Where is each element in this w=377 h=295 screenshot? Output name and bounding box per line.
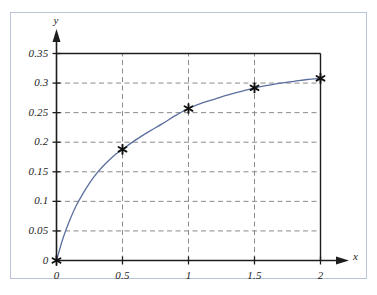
y-tick-label: 0.35 [28,47,48,59]
chart-plot-area [0,0,377,295]
y-tick-label: 0.3 [34,76,48,88]
x-tick-label: 1.5 [235,269,275,281]
y-tick-label: 0.1 [34,194,48,206]
y-tick-label: 0.2 [34,135,48,147]
x-tick-label: 0.5 [103,269,143,281]
y-tick-label: 0.25 [28,106,48,118]
y-tick-label: 0 [43,254,49,266]
y-axis-title: y [54,14,59,26]
figure-container: 00.050.10.150.20.250.30.35 00.511.52 y x [0,0,377,295]
x-axis-title: x [353,250,358,262]
data-point-marker [119,145,127,154]
y-tick-label: 0.05 [28,224,48,236]
y-tick-label: 0.15 [28,165,48,177]
x-tick-label: 0 [37,269,77,281]
data-point-markers [53,74,325,265]
vertical-gridlines [123,54,255,261]
axis-lines [53,29,350,265]
data-point-marker [185,104,193,113]
x-tick-label: 1 [169,269,209,281]
x-tick-label: 2 [301,269,341,281]
axis-tick-marks [53,54,321,265]
